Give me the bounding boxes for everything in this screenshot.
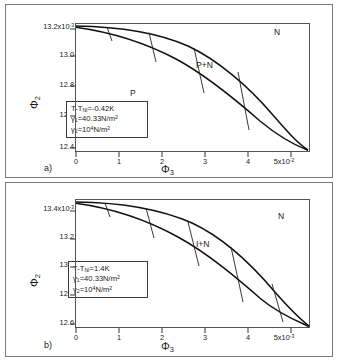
panel-a: Φ2 13.2x10-3 13.0 12.8 12.6 12.4 0 1 2 3… — [5, 4, 333, 178]
panel-a-lower-branch-curve — [76, 27, 308, 150]
panel-a-x-tick-marks — [76, 152, 291, 158]
panel-b: Φ2 13.4x10-3 13.2 13.0 12.8 12.6 0 1 2 3… — [5, 182, 333, 357]
figure-root: Φ2 13.2x10-3 13.0 12.8 12.6 12.4 0 1 2 3… — [0, 0, 338, 361]
panel-a-plot — [6, 5, 334, 179]
panel-b-upper-branch-curve — [76, 202, 309, 326]
panel-b-lower-branch-curve — [76, 203, 309, 326]
panel-b-tie-lines — [105, 203, 283, 322]
panel-b-x-tick-marks — [76, 328, 291, 334]
panel-a-y-tick-marks — [70, 29, 76, 148]
panel-b-y-tick-marks — [70, 211, 76, 324]
panel-b-plot — [6, 183, 334, 358]
